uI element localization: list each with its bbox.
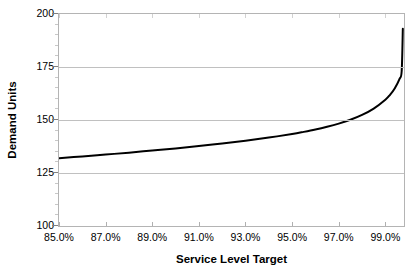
- x-axis-tick-mark-top: [292, 14, 293, 18]
- plot-area: [58, 13, 405, 227]
- x-axis-tick-mark: [339, 222, 340, 226]
- x-axis-tick-mark-top: [385, 14, 386, 18]
- y-axis-tick-labels: 200175150125100: [24, 0, 54, 240]
- x-axis-tick-mark: [199, 222, 200, 226]
- x-axis-tick-mark: [59, 222, 60, 226]
- x-axis-tick-mark-top: [106, 14, 107, 18]
- x-axis-tick-mark: [152, 222, 153, 226]
- y-axis-tick-label: 100: [28, 220, 54, 230]
- y-axis-tick-label: 150: [28, 114, 54, 124]
- y-axis-title: Demand Units: [0, 0, 24, 240]
- gridline-horizontal: [59, 120, 404, 121]
- chart-container: Demand Units 200175150125100 85.0%87.0%8…: [0, 0, 412, 273]
- x-axis-tick-mark: [385, 222, 386, 226]
- x-axis-tick-label: 99.0%: [355, 231, 412, 243]
- x-axis-tick-mark: [106, 222, 107, 226]
- x-axis-tick-labels: 85.0%87.0%89.0%91.0%93.0%95.0%97.0%99.0%: [0, 231, 412, 247]
- x-axis-tick-mark-top: [152, 14, 153, 18]
- x-axis-tick-mark-top: [245, 14, 246, 18]
- x-axis-tick-mark: [292, 222, 293, 226]
- x-axis-title: Service Level Target: [58, 253, 405, 265]
- y-axis-tick-label: 125: [28, 167, 54, 177]
- gridline-horizontal: [59, 67, 404, 68]
- gridline-horizontal: [59, 173, 404, 174]
- x-axis-tick-mark-top: [339, 14, 340, 18]
- y-axis-tick-label: 175: [28, 61, 54, 71]
- x-axis-tick-mark-top: [199, 14, 200, 18]
- y-axis-title-text: Demand Units: [6, 81, 18, 158]
- x-axis-tick-mark: [245, 222, 246, 226]
- y-axis-tick-label: 200: [28, 8, 54, 18]
- x-axis-tick-mark-top: [59, 14, 60, 18]
- series-line-demand-units: [59, 29, 403, 158]
